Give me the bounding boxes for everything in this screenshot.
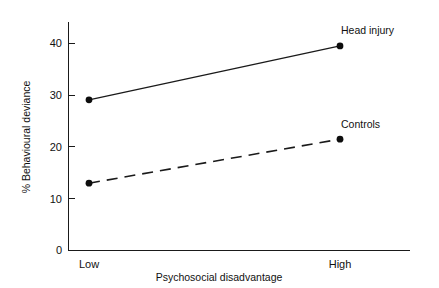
y-tick-label-30: 30 [50,89,62,101]
series-line-head-injury [89,46,340,100]
chart-figure: 0 10 20 30 40 Low High % Behavioural dev… [0,0,439,288]
data-point-controls-low [86,180,93,187]
series-label-controls: Controls [341,118,380,130]
series-line-controls [89,139,340,183]
y-tick-label-40: 40 [50,37,62,49]
line-chart: 0 10 20 30 40 Low High % Behavioural dev… [0,0,439,288]
data-point-controls-high [337,136,344,143]
y-tick-label-20: 20 [50,141,62,153]
data-point-head-injury-low [86,96,93,103]
y-axis-title: % Behavioural deviance [20,81,32,194]
series-label-head-injury: Head injury [341,24,395,36]
x-tick-label-high: High [329,258,352,270]
x-axis-title: Psychosocial disadvantage [156,271,283,283]
y-tick-label-0: 0 [56,244,62,256]
data-point-head-injury-high [337,43,344,50]
y-tick-label-10: 10 [50,193,62,205]
x-tick-label-low: Low [79,258,99,270]
